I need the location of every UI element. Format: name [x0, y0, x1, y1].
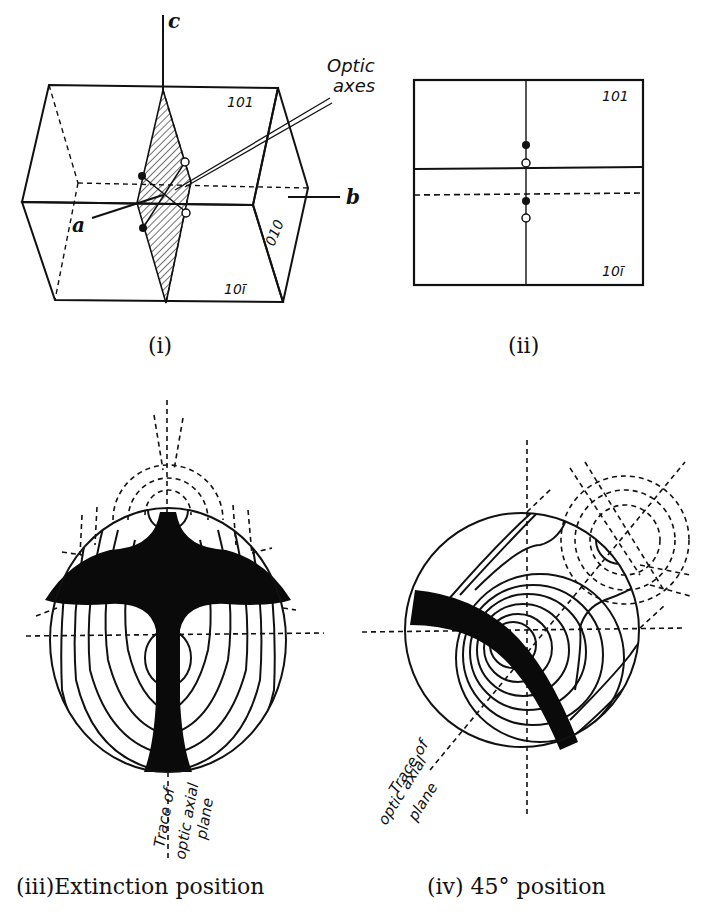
panel-i-crystal-diagram: [22, 15, 340, 303]
caption-iv: (iv) 45° position: [427, 874, 606, 899]
face-label-10-1bar-projection: 10ī: [602, 263, 626, 279]
face-label-101: 101: [227, 94, 254, 110]
panel-ii-face-projection: [414, 80, 643, 285]
caption-ii: (ii): [508, 333, 539, 358]
axis-label-c: c: [168, 9, 180, 33]
caption-i: (i): [148, 333, 172, 358]
axis-label-a: a: [72, 213, 85, 237]
face-label-101-projection: 101: [602, 88, 629, 104]
face-label-010: 010: [262, 217, 287, 248]
axis-label-b: b: [346, 185, 360, 209]
optic-axes-label-line1: Optic: [327, 55, 375, 76]
figure-canvas: c b a 101 10ī 010 Optic axes (i) 101 10ī…: [0, 0, 709, 916]
optics-figure: c b a 101 10ī 010 Optic axes (i) 101 10ī…: [0, 0, 709, 916]
face-label-10-1bar: 10ī: [224, 281, 248, 297]
caption-iii: (iii)Extinction position: [16, 874, 264, 899]
optic-axes-label-line2: axes: [333, 75, 375, 96]
